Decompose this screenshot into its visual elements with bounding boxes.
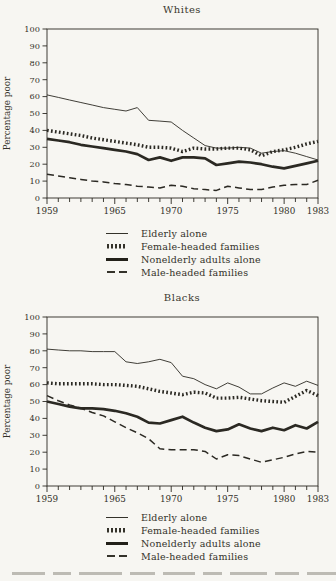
plot-frame <box>47 29 318 198</box>
series-line-male-headed-families <box>47 174 318 190</box>
y-tick-label: 30 <box>30 142 40 152</box>
series-line-elderly-alone <box>47 349 318 394</box>
series-line-nonelderly-adults-alone <box>47 402 318 432</box>
y-tick-label: 90 <box>30 329 40 339</box>
y-tick-label: 60 <box>30 379 40 389</box>
x-tick-label: 1965 <box>104 494 126 502</box>
legend-item: Female-headed families <box>106 524 336 537</box>
y-tick-label: 100 <box>24 312 40 322</box>
x-tick-label: 1959 <box>36 206 58 214</box>
thin-line-icon <box>106 229 128 238</box>
legend-label: Female-headed families <box>141 525 260 536</box>
x-tick-label: 1965 <box>104 206 126 214</box>
y-tick-label: 50 <box>30 396 40 406</box>
dashed-line-icon <box>106 268 128 277</box>
x-tick-label: 1980 <box>273 206 296 214</box>
y-tick-label: 0 <box>35 193 40 203</box>
series-line-nonelderly-adults-alone <box>47 139 318 169</box>
legend-label: Nonelderly adults alone <box>141 538 261 549</box>
figure-poverty-trends: Whites 010203040506070809010019591965197… <box>0 0 336 581</box>
y-tick-label: 40 <box>30 125 40 135</box>
chart-title-whites: Whites <box>0 4 336 16</box>
dashed-line-icon <box>106 552 128 561</box>
y-axis-title: Percentage poor <box>2 76 12 150</box>
legend-whites: Elderly alone Female-headed families Non… <box>106 227 336 279</box>
y-tick-label: 30 <box>30 430 40 440</box>
legend-label: Male-headed families <box>141 551 248 562</box>
legend-item: Male-headed families <box>106 266 336 279</box>
legend-item: Nonelderly adults alone <box>106 253 336 266</box>
y-tick-label: 70 <box>30 75 40 85</box>
line-chart-blacks: 0102030405060708090100195919651970197519… <box>0 304 336 502</box>
legend-item: Female-headed families <box>106 240 336 253</box>
thin-line-icon <box>106 513 128 522</box>
chart-title-blacks: Blacks <box>0 292 336 304</box>
clipped-caption-text <box>12 570 336 575</box>
legend-blacks: Elderly alone Female-headed families Non… <box>106 511 336 563</box>
y-tick-label: 70 <box>30 363 40 373</box>
chart-blacks: Blacks 010203040506070809010019591965197… <box>0 292 336 502</box>
x-tick-label: 1980 <box>273 494 296 502</box>
thick-line-icon <box>106 255 128 264</box>
x-tick-label: 1975 <box>216 494 238 502</box>
y-tick-label: 40 <box>30 413 40 423</box>
y-tick-label: 80 <box>30 346 40 356</box>
chart-whites: Whites 010203040506070809010019591965197… <box>0 4 336 214</box>
dotted-line-icon <box>106 242 128 251</box>
legend-item: Elderly alone <box>106 227 336 240</box>
legend-item: Elderly alone <box>106 511 336 524</box>
line-chart-whites: 0102030405060708090100195919651970197519… <box>0 16 336 214</box>
x-tick-label: 1959 <box>36 494 58 502</box>
y-tick-label: 60 <box>30 91 40 101</box>
x-tick-label: 1983 <box>307 494 329 502</box>
y-tick-label: 10 <box>30 464 40 474</box>
legend-label: Female-headed families <box>141 241 260 252</box>
y-tick-label: 20 <box>30 447 40 457</box>
y-tick-label: 50 <box>30 108 40 118</box>
x-tick-label: 1970 <box>160 206 183 214</box>
y-tick-label: 80 <box>30 58 40 68</box>
thick-line-icon <box>106 539 128 548</box>
legend-label: Elderly alone <box>141 512 207 523</box>
legend-label: Elderly alone <box>141 228 207 239</box>
series-line-female-headed-families <box>47 130 318 155</box>
y-axis-title: Percentage poor <box>2 364 12 438</box>
y-tick-label: 100 <box>24 24 40 34</box>
legend-item: Nonelderly adults alone <box>106 537 336 550</box>
legend-label: Male-headed families <box>141 267 248 278</box>
y-tick-label: 90 <box>30 41 40 51</box>
legend-label: Nonelderly adults alone <box>141 254 261 265</box>
legend-item: Male-headed families <box>106 550 336 563</box>
y-tick-label: 0 <box>35 481 40 491</box>
x-tick-label: 1983 <box>307 206 329 214</box>
x-tick-label: 1975 <box>216 206 238 214</box>
dotted-line-icon <box>106 526 128 535</box>
y-tick-label: 10 <box>30 176 40 186</box>
y-tick-label: 20 <box>30 159 40 169</box>
x-tick-label: 1970 <box>160 494 183 502</box>
